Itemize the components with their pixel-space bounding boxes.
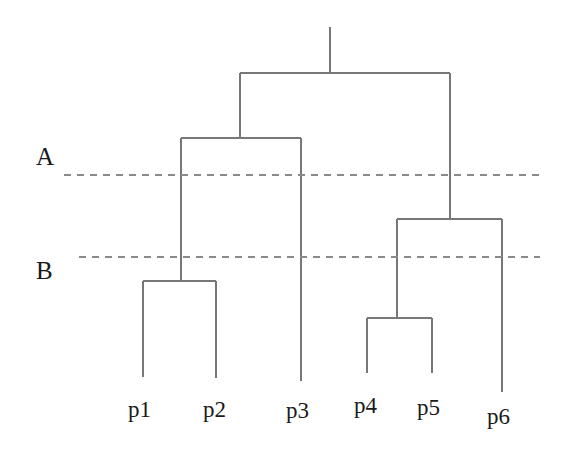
leaf-label-p1: p1 bbox=[128, 398, 151, 421]
cut-line-label-A: A bbox=[36, 144, 54, 169]
dendrogram-canvas bbox=[0, 0, 562, 457]
leaf-label-p2: p2 bbox=[203, 398, 226, 421]
cut-line-label-B: B bbox=[36, 258, 53, 283]
leaf-label-p6: p6 bbox=[487, 405, 510, 428]
leaf-label-p3: p3 bbox=[286, 399, 309, 422]
leaf-label-p5: p5 bbox=[417, 396, 440, 419]
dendrogram-figure: p1p2p3p4p5p6 AB bbox=[0, 0, 562, 457]
cut-line-layer bbox=[64, 175, 540, 257]
branch-layer bbox=[143, 27, 502, 392]
leaf-label-p4: p4 bbox=[354, 394, 377, 417]
